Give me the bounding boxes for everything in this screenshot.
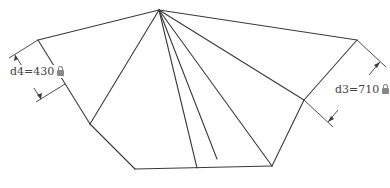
fan-line-inner[interactable]: [159, 10, 217, 159]
fan-line-right-mid[interactable]: [159, 10, 304, 100]
d4-extension-bottom: [36, 84, 65, 102]
d4-value: d4=430: [10, 65, 54, 78]
fan-line-bottom-right[interactable]: [159, 10, 272, 166]
d3-arrow-bottom: [328, 116, 334, 122]
d4-dimension-label[interactable]: d4=430: [9, 65, 65, 78]
lock-icon: [57, 70, 64, 76]
lock-icon: [382, 88, 389, 94]
d3-extension-top: [357, 40, 386, 67]
edge-left-mid-bottom-left[interactable]: [90, 124, 135, 169]
d4-extension-top: [9, 40, 38, 58]
d3-arrow-top: [374, 62, 380, 68]
d3-value: d3=710: [335, 83, 379, 96]
edge-apex-left-upper[interactable]: [38, 10, 159, 40]
edge-apex-right-upper[interactable]: [159, 10, 357, 40]
edge-bottom-right-right-mid[interactable]: [272, 100, 304, 166]
fan-line-bottom-1[interactable]: [159, 10, 197, 168]
d3-dimension-label[interactable]: d3=710: [334, 83, 390, 96]
fan-line-left-mid[interactable]: [90, 10, 159, 124]
d3-extension-bottom: [304, 100, 333, 127]
edge-left-upper-left-mid[interactable]: [38, 40, 90, 124]
edge-bottom[interactable]: [135, 166, 272, 169]
